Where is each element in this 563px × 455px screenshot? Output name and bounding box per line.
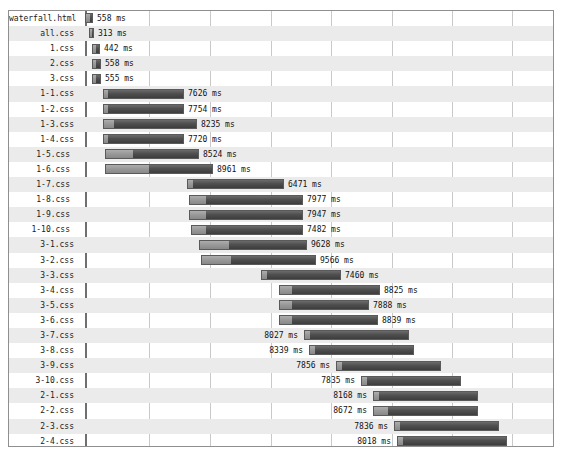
row-label: 1-6.css — [9, 162, 77, 177]
timing-bar[interactable] — [92, 59, 101, 69]
waterfall-row[interactable]: 2-3.css7836 ms — [9, 419, 553, 434]
timing-bar[interactable] — [103, 89, 184, 99]
row-label: 2-3.css — [9, 419, 77, 434]
row-label: 1-8.css — [9, 192, 77, 207]
timing-bar[interactable] — [373, 391, 478, 401]
timing-bar[interactable] — [92, 74, 101, 84]
waterfall-row[interactable]: 3-4.css8825 ms — [9, 283, 553, 298]
bar-segment-load — [149, 165, 212, 173]
bar-value-label: 8235 ms — [197, 117, 235, 132]
timing-bar[interactable] — [279, 285, 380, 295]
bar-segment-wait — [280, 316, 292, 324]
bar-segment-load — [267, 271, 340, 279]
waterfall-row[interactable]: 3-9.css7856 ms — [9, 358, 553, 373]
timing-bar[interactable] — [103, 104, 184, 114]
bar-segment-load — [292, 301, 368, 309]
waterfall-row[interactable]: waterfall.html558 ms — [9, 11, 553, 26]
waterfall-row[interactable]: 3-8.css8339 ms — [9, 343, 553, 358]
waterfall-row[interactable]: 1-10.css7482 ms — [9, 222, 553, 237]
bar-value-label: 558 ms — [93, 11, 126, 26]
timing-bar[interactable] — [189, 195, 303, 205]
timing-bar[interactable] — [199, 240, 307, 250]
waterfall-row[interactable]: 1-4.css7720 ms — [9, 132, 553, 147]
bar-value-label: 8825 ms — [380, 283, 418, 298]
bar-segment-load — [108, 90, 183, 98]
waterfall-row[interactable]: 1-3.css8235 ms — [9, 117, 553, 132]
timing-bar[interactable] — [279, 300, 369, 310]
waterfall-row[interactable]: 3-7.css8027 ms — [9, 328, 553, 343]
waterfall-row[interactable]: 1-7.css6471 ms — [9, 177, 553, 192]
timing-bar[interactable] — [105, 164, 213, 174]
waterfall-row[interactable]: 2-1.css8168 ms — [9, 388, 553, 403]
bar-segment-load — [400, 422, 498, 430]
row-label: 1-7.css — [9, 177, 77, 192]
waterfall-row[interactable]: 1-2.css7754 ms — [9, 102, 553, 117]
bar-segment-load — [342, 362, 440, 370]
timing-bar[interactable] — [309, 345, 414, 355]
bar-value-label: 7888 ms — [369, 298, 407, 313]
timing-bar[interactable] — [191, 225, 303, 235]
bar-segment-load — [206, 226, 302, 234]
waterfall-row[interactable]: 3-1.css9628 ms — [9, 237, 553, 252]
bar-segment-load — [315, 346, 413, 354]
row-label: 3-7.css — [9, 328, 77, 343]
timing-bar[interactable] — [105, 149, 199, 159]
row-label: 3-1.css — [9, 237, 77, 252]
bar-segment-load — [96, 60, 100, 68]
timing-bar[interactable] — [336, 361, 441, 371]
row-label: 3-8.css — [9, 343, 77, 358]
waterfall-row[interactable]: 3-10.css7835 ms — [9, 373, 553, 388]
bar-segment-load — [90, 14, 92, 22]
row-label: 1-3.css — [9, 117, 77, 132]
waterfall-row[interactable]: 3-3.css7460 ms — [9, 268, 553, 283]
timing-bar[interactable] — [85, 13, 93, 23]
row-label: 2-1.css — [9, 388, 77, 403]
bar-value-label: 7856 ms — [296, 358, 334, 373]
bar-value-label: 6471 ms — [284, 177, 322, 192]
timing-bar[interactable] — [261, 270, 341, 280]
bar-segment-load — [229, 241, 306, 249]
waterfall-row[interactable]: all.css313 ms — [9, 26, 553, 41]
bar-segment-load — [114, 120, 196, 128]
timing-bar[interactable] — [397, 436, 507, 446]
waterfall-row[interactable]: 1-1.css7626 ms — [9, 86, 553, 101]
timing-bar[interactable] — [103, 134, 184, 144]
row-label: 3-4.css — [9, 283, 77, 298]
waterfall-row[interactable]: 2.css558 ms — [9, 56, 553, 71]
row-label: 1-1.css — [9, 86, 77, 101]
row-label: 3.css — [9, 71, 77, 86]
waterfall-row[interactable]: 3-5.css7888 ms — [9, 298, 553, 313]
waterfall-row[interactable]: 1-6.css8961 ms — [9, 162, 553, 177]
row-label: 3-5.css — [9, 298, 77, 313]
timing-bar[interactable] — [279, 315, 378, 325]
bar-value-label: 313 ms — [94, 26, 127, 41]
waterfall-row[interactable]: 3-2.css9566 ms — [9, 253, 553, 268]
timing-bar[interactable] — [92, 44, 100, 54]
bar-segment-load — [403, 437, 506, 445]
timing-bar[interactable] — [373, 406, 478, 416]
waterfall-rows: waterfall.html558 msall.css313 ms1.css44… — [9, 11, 553, 447]
bar-segment-load — [96, 45, 99, 53]
row-label: 1-4.css — [9, 132, 77, 147]
waterfall-row[interactable]: 1.css442 ms — [9, 41, 553, 56]
bar-value-label: 8339 ms — [269, 343, 307, 358]
timing-bar[interactable] — [394, 421, 499, 431]
timing-bar[interactable] — [187, 179, 284, 189]
waterfall-row[interactable]: 2-4.css8018 ms — [9, 434, 553, 447]
row-label: waterfall.html — [9, 11, 77, 26]
timing-bar[interactable] — [189, 210, 303, 220]
waterfall-row[interactable]: 1-8.css7977 ms — [9, 192, 553, 207]
bar-value-label: 555 ms — [101, 71, 134, 86]
bar-segment-wait — [190, 196, 206, 204]
waterfall-row[interactable]: 2-2.css8672 ms — [9, 403, 553, 418]
timing-bar[interactable] — [361, 376, 461, 386]
timing-bar[interactable] — [304, 330, 409, 340]
row-label: 1-9.css — [9, 207, 77, 222]
waterfall-row[interactable]: 3-6.css8839 ms — [9, 313, 553, 328]
waterfall-row[interactable]: 1-5.css8524 ms — [9, 147, 553, 162]
waterfall-row[interactable]: 1-9.css7947 ms — [9, 207, 553, 222]
timing-bar[interactable] — [201, 255, 316, 265]
waterfall-row[interactable]: 3.css555 ms — [9, 71, 553, 86]
bar-segment-load — [92, 29, 93, 37]
timing-bar[interactable] — [103, 119, 197, 129]
